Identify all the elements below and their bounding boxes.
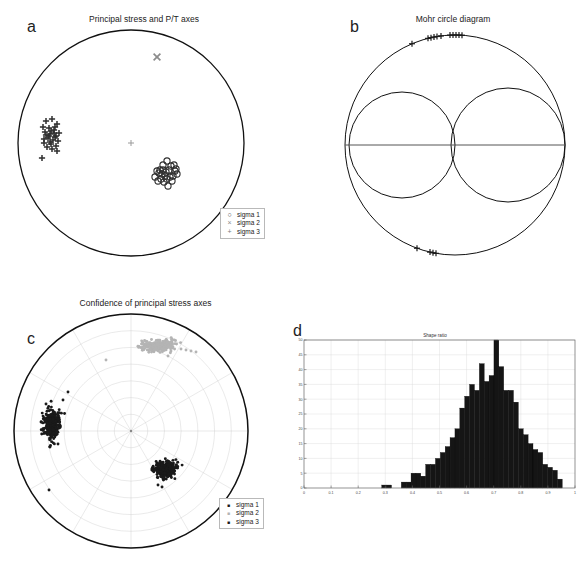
legend-label-sigma-3: sigma 3 xyxy=(235,228,260,236)
svg-text:40: 40 xyxy=(299,368,303,372)
svg-text:30: 30 xyxy=(299,398,303,402)
panel-d-title: Shape ratio xyxy=(400,333,470,338)
svg-text:0.2: 0.2 xyxy=(356,491,361,495)
svg-text:25: 25 xyxy=(299,412,303,416)
sigma-1-symbol-icon: ○ xyxy=(224,211,235,219)
panel-b: b Mohr circle diagram xyxy=(290,0,580,283)
svg-text:0.7: 0.7 xyxy=(491,491,496,495)
panel-d-histogram: 00.10.20.30.40.50.60.70.80.9105101520253… xyxy=(285,318,580,518)
legend-item-sigma-2: × sigma 2 xyxy=(224,219,260,227)
svg-text:0.8: 0.8 xyxy=(518,491,523,495)
panel-b-title: Mohr circle diagram xyxy=(398,14,508,24)
panel-c-title: Confidence of principal stress axes xyxy=(58,298,233,308)
sigma-3-symbol-icon: + xyxy=(224,228,235,236)
legend-label-sigma-2: sigma 2 xyxy=(235,219,260,227)
svg-text:10: 10 xyxy=(299,457,303,461)
legend-item-sigma-3: ■ sigma 3 xyxy=(223,518,259,526)
sigma-3-symbol-icon: ■ xyxy=(223,518,234,526)
panel-a: a Principal stress and P/T axes ○ sigma … xyxy=(0,0,290,283)
legend-label-sigma-3: sigma 3 xyxy=(234,518,259,526)
sigma-2-symbol-icon: × xyxy=(224,219,235,227)
svg-text:5: 5 xyxy=(301,472,303,476)
svg-text:0.6: 0.6 xyxy=(464,491,469,495)
panel-d: d Shape ratio 00.10.20.30.40.50.60.70.80… xyxy=(285,318,580,518)
svg-text:1: 1 xyxy=(574,491,576,495)
panel-d-letter: d xyxy=(293,322,302,340)
svg-text:0.1: 0.1 xyxy=(329,491,334,495)
panel-a-letter: a xyxy=(27,18,36,36)
legend-item-sigma-1: ○ sigma 1 xyxy=(224,211,260,219)
legend-item-sigma-3: + sigma 3 xyxy=(224,228,260,236)
svg-text:20: 20 xyxy=(299,427,303,431)
legend-item-sigma-2: ■ sigma 2 xyxy=(223,509,259,517)
svg-text:0.3: 0.3 xyxy=(383,491,388,495)
panel-a-plot xyxy=(0,0,290,283)
panel-a-title: Principal stress and P/T axes xyxy=(64,14,224,24)
sigma-2-symbol-icon: ■ xyxy=(223,509,234,517)
svg-text:0.5: 0.5 xyxy=(437,491,442,495)
svg-text:0: 0 xyxy=(303,491,305,495)
legend-label-sigma-1: sigma 1 xyxy=(235,211,260,219)
sigma-1-symbol-icon: ■ xyxy=(223,501,234,509)
panel-a-legend: ○ sigma 1 × sigma 2 + sigma 3 xyxy=(220,208,265,239)
legend-label-sigma-1: sigma 1 xyxy=(234,501,259,509)
legend-item-sigma-1: ■ sigma 1 xyxy=(223,501,259,509)
svg-text:35: 35 xyxy=(299,383,303,387)
svg-text:45: 45 xyxy=(299,353,303,357)
panel-c-letter: c xyxy=(27,330,35,348)
panel-b-plot xyxy=(290,0,580,283)
legend-label-sigma-2: sigma 2 xyxy=(234,509,259,517)
panel-c: c Confidence of principal stress axes ■ … xyxy=(0,290,290,566)
svg-text:0.9: 0.9 xyxy=(545,491,550,495)
svg-text:0.4: 0.4 xyxy=(410,491,415,495)
panel-b-letter: b xyxy=(350,18,359,36)
svg-text:15: 15 xyxy=(299,442,303,446)
panel-c-legend: ■ sigma 1 ■ sigma 2 ■ sigma 3 xyxy=(219,498,264,529)
svg-text:0: 0 xyxy=(301,486,303,490)
